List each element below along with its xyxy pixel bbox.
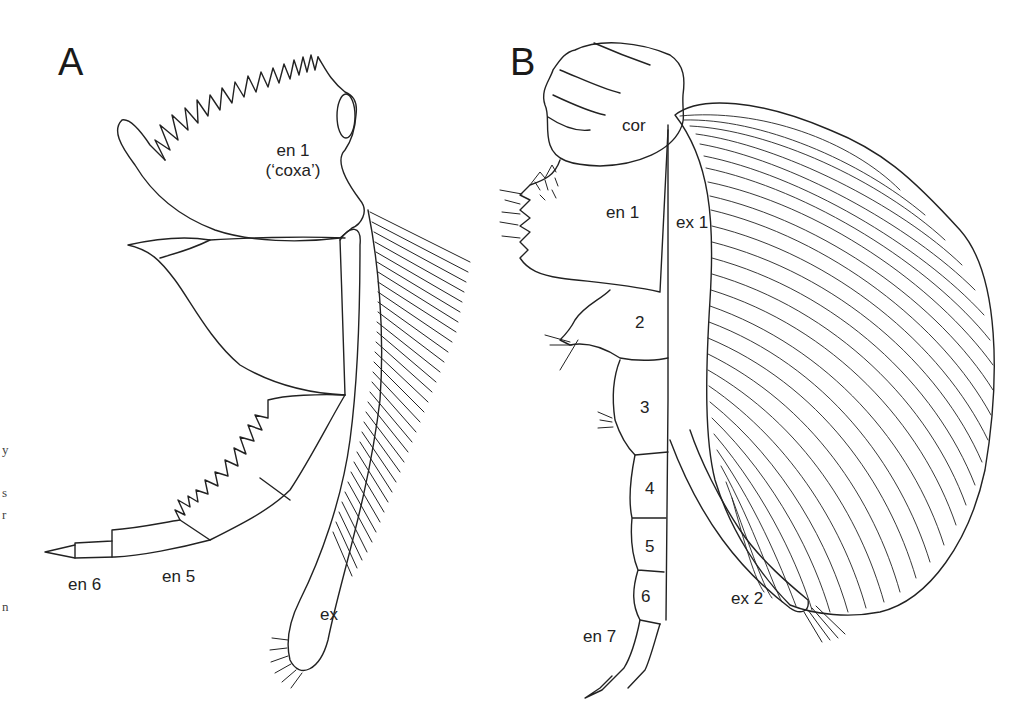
- basis-outline: [128, 237, 345, 395]
- label-en6: en 6: [68, 576, 101, 593]
- endopod-1-outline: [520, 130, 668, 292]
- endopod-distal: [45, 395, 345, 558]
- endopod-2-outline: [560, 290, 668, 360]
- label-ex: ex: [320, 606, 338, 623]
- figure: y s r n: [0, 0, 1020, 728]
- label-en1-coxa: en 1 (‘coxa’): [248, 142, 338, 179]
- panel-label-a: A: [58, 43, 83, 81]
- label-b-en1: en 1: [606, 204, 639, 221]
- label-en5: en 5: [162, 568, 195, 585]
- label-en7: en 7: [583, 628, 616, 645]
- cor-outline: [544, 43, 684, 166]
- label-seg6: 6: [641, 588, 650, 605]
- exopod-lobe-setae: [680, 115, 993, 612]
- label-seg2: 2: [635, 314, 644, 331]
- label-ex2: ex 2: [731, 590, 763, 607]
- coxa-articulation: [337, 94, 355, 138]
- exopod-setae: [270, 212, 470, 688]
- exopod-1-line: [666, 125, 668, 620]
- label-cor: cor: [622, 117, 646, 134]
- panel-label-b: B: [510, 43, 535, 81]
- drawing: [0, 0, 1020, 728]
- label-seg5: 5: [645, 538, 654, 555]
- label-en1: en 1: [248, 142, 338, 159]
- label-seg4: 4: [645, 480, 654, 497]
- label-seg3: 3: [640, 399, 649, 416]
- label-coxa: (‘coxa’): [248, 162, 338, 179]
- label-ex1: ex 1: [676, 214, 708, 231]
